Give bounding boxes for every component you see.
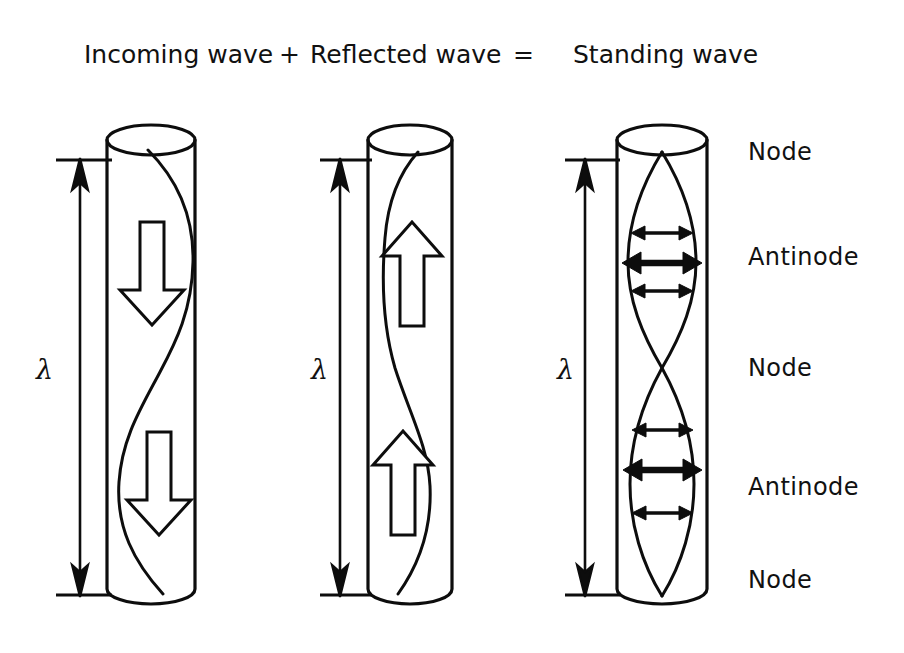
standing-wave-panel <box>565 125 707 604</box>
wavelength-label-2: λ <box>311 354 329 385</box>
cylinder-top-ellipse-2 <box>368 125 452 155</box>
standing-envelope-a-3 <box>628 152 694 596</box>
cylinder-body-3 <box>617 140 707 604</box>
antinode-arrow-small-upper-top <box>631 226 693 240</box>
direction-arrow-down-1a <box>120 222 184 325</box>
antinode-arrow-large-upper <box>622 252 702 274</box>
side-label-antinode-lower: Antinode <box>748 475 859 499</box>
standing-wave-figure: Incoming wave + Reflected wave = Standin… <box>0 0 904 653</box>
standing-envelope-b-3 <box>630 152 696 596</box>
direction-arrow-up-2a <box>382 222 442 326</box>
direction-arrow-down-1b <box>127 432 191 535</box>
antinode-arrow-small-lower-bottom <box>632 506 693 520</box>
side-label-node-top: Node <box>748 140 812 164</box>
diagram-canvas <box>0 0 904 653</box>
cylinder-top-ellipse-1 <box>107 125 195 155</box>
antinode-arrow-small-lower-top <box>632 423 693 437</box>
wavelength-label-3: λ <box>557 354 575 385</box>
antinode-arrow-group-upper <box>622 226 702 298</box>
incoming-wave-panel <box>56 125 195 604</box>
side-label-node-bottom: Node <box>748 568 812 592</box>
antinode-arrow-small-upper-bottom <box>631 284 693 298</box>
reflected-wave-panel <box>320 125 452 604</box>
side-label-antinode-upper: Antinode <box>748 245 859 269</box>
side-label-node-middle: Node <box>748 356 812 380</box>
wavelength-label-1: λ <box>36 354 54 385</box>
cylinder-body-1 <box>107 140 195 604</box>
antinode-arrow-large-lower <box>623 459 702 481</box>
